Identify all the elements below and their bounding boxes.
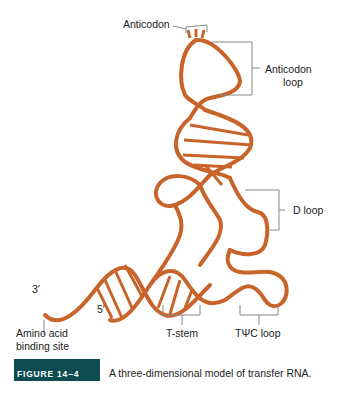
label-3-prime: 3′ <box>32 283 40 295</box>
trna-model-illustration <box>0 0 345 350</box>
label-anticodon-loop-2: loop <box>283 76 303 88</box>
label-anticodon: Anticodon <box>123 18 170 30</box>
trna-figure: Anticodon Anticodon loop D loop 3′ 5′ Am… <box>0 0 345 350</box>
figure-caption: A three-dimensional model of transfer RN… <box>109 367 312 379</box>
label-tpsic-loop: TΨC loop <box>235 327 281 339</box>
label-t-stem: T-stem <box>166 327 198 339</box>
label-5-prime: 5′ <box>97 303 105 315</box>
figure-number-badge: FIGURE 14–4 <box>14 359 100 381</box>
label-amino-acid-1: Amino acid <box>16 327 68 339</box>
label-amino-acid-2: binding site <box>16 340 69 352</box>
label-anticodon-loop-1: Anticodon <box>265 63 312 75</box>
label-d-loop: D loop <box>293 204 323 216</box>
figure-number: FIGURE 14–4 <box>17 369 79 379</box>
